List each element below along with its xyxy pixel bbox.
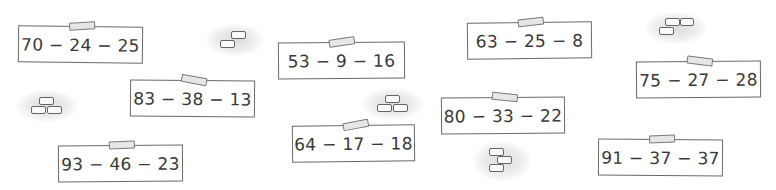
tape-icon [342, 119, 369, 132]
bricks-icon [220, 30, 250, 50]
tape-icon [181, 74, 208, 87]
bricks-icon [30, 96, 64, 116]
expression-card: 91 − 37 − 37 [598, 139, 723, 177]
expression-text: 53 − 9 − 16 [288, 50, 396, 71]
tape-icon [328, 36, 355, 48]
tape-icon [686, 55, 713, 66]
expression-card: 93 − 46 − 23 [58, 145, 183, 183]
expression-card: 63 − 25 − 8 [467, 21, 592, 59]
expression-text: 70 − 24 − 25 [21, 34, 140, 55]
bricks-icon [659, 18, 693, 38]
expression-card: 80 − 33 − 22 [441, 96, 565, 134]
expression-text: 80 − 33 − 22 [444, 105, 563, 126]
expression-text: 63 − 25 − 8 [476, 30, 584, 51]
expression-card: 70 − 24 − 25 [18, 25, 143, 63]
expression-text: 83 − 38 − 13 [133, 88, 252, 109]
tape-icon [69, 21, 95, 31]
tape-icon [649, 134, 675, 143]
expression-card: 75 − 27 − 28 [636, 60, 761, 98]
expression-card: 83 − 38 − 13 [130, 79, 255, 117]
expression-text: 93 − 46 − 23 [61, 153, 180, 174]
expression-text: 75 − 27 − 28 [639, 69, 758, 90]
expression-text: 91 − 37 − 37 [601, 147, 720, 168]
tape-icon [492, 92, 519, 102]
bricks-icon [487, 147, 517, 175]
expression-card: 53 − 9 − 16 [278, 41, 405, 79]
tape-icon [517, 17, 544, 28]
tape-icon [109, 140, 135, 149]
expression-card: 64 − 17 − 18 [292, 124, 415, 162]
bricks-icon [376, 94, 410, 114]
expression-text: 64 − 17 − 18 [294, 133, 413, 154]
